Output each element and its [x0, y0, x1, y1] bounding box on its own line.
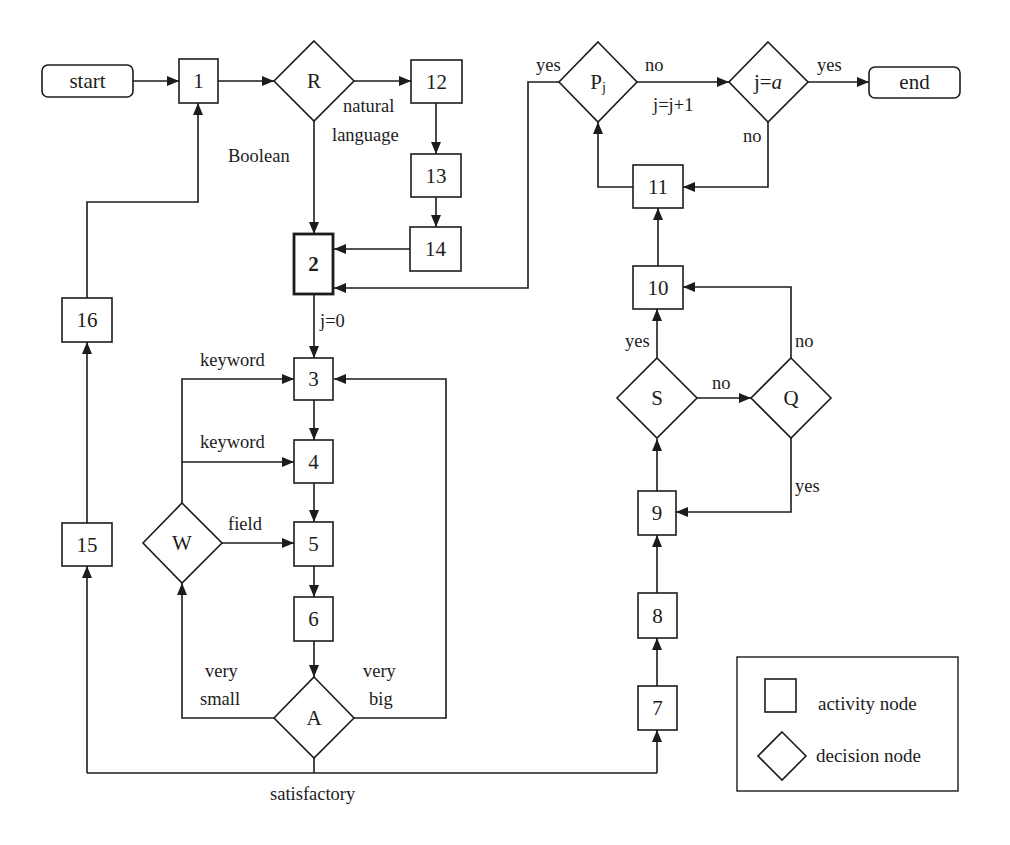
edge-label-q-yes: yes	[795, 476, 820, 496]
activity-node-16: 16	[62, 298, 112, 342]
edge-label-pj-no: no	[645, 55, 664, 75]
edge-label-q-no: no	[795, 331, 814, 351]
edge-label-very-big-1: very	[363, 661, 397, 681]
edge-label-ja-yes: yes	[817, 55, 842, 75]
activity-node-label: 9	[652, 501, 663, 525]
activity-node-15: 15	[62, 523, 112, 566]
activity-node-5: 5	[294, 522, 333, 566]
edge-label-ja-no: no	[743, 126, 762, 146]
decision-node-label: A	[306, 706, 322, 730]
edge-label-natural: natural	[343, 96, 394, 116]
activity-node-label: 13	[426, 164, 447, 188]
terminal-start-label: start	[69, 69, 105, 93]
decision-node-w: W	[143, 503, 222, 583]
flowchart: start end 1 2 3 4 5 6 7 8 9 10	[0, 0, 1010, 845]
activity-node-11: 11	[633, 165, 683, 208]
edge-label-very-big-2: big	[369, 689, 393, 709]
edge-label-j-increment: j=j+1	[652, 95, 693, 115]
decision-node-label-base: P	[590, 70, 602, 94]
edge-label-very-small-2: small	[200, 689, 240, 709]
activity-node-label: 8	[652, 604, 663, 628]
edge-16-to-1	[87, 103, 198, 298]
activity-node-13: 13	[411, 154, 461, 197]
decision-node-a: A	[274, 677, 354, 758]
activity-node-7: 7	[638, 686, 677, 730]
edge-label-language: language	[332, 125, 399, 145]
edge-label-field: field	[228, 514, 263, 534]
decision-node-label-variable: a	[772, 70, 783, 94]
activity-node-label: 4	[308, 450, 319, 474]
activity-node-9: 9	[638, 491, 676, 535]
decision-node-label-prefix: j=	[753, 70, 772, 94]
edge-label-keyword-1: keyword	[200, 350, 265, 370]
decision-node-q: Q	[751, 358, 831, 438]
decision-node-pj: Pj	[559, 42, 637, 122]
activity-node-2: 2	[294, 234, 333, 294]
edge-label-j-init: j=0	[319, 311, 345, 331]
activity-node-10: 10	[633, 266, 683, 309]
edge-label-satisfactory: satisfactory	[270, 784, 356, 804]
decision-node-r: R	[274, 41, 354, 121]
activity-node-label: 2	[308, 252, 319, 276]
activity-node-label: 6	[308, 607, 319, 631]
activity-node-label: 5	[308, 532, 319, 556]
legend-activity-label: activity node	[818, 693, 917, 714]
edge-11-to-pj	[598, 122, 633, 187]
activity-node-label: 11	[648, 175, 668, 199]
legend-decision-label: decision node	[816, 745, 921, 766]
activity-node-8: 8	[638, 593, 677, 638]
edge-q-yes-to-9	[676, 438, 791, 512]
terminal-start: start	[42, 65, 133, 97]
activity-node-label: 14	[425, 237, 447, 261]
activity-node-4: 4	[294, 440, 333, 483]
edge-label-s-no: no	[712, 373, 731, 393]
decision-node-j-equals-a: j=a	[729, 42, 808, 122]
decision-node-label: j=a	[753, 70, 782, 94]
activity-node-label: 10	[648, 276, 669, 300]
decision-node-label: W	[172, 531, 192, 555]
edge-label-very-small-1: very	[205, 661, 239, 681]
edge-label-boolean: Boolean	[228, 146, 290, 166]
legend: activity node decision node	[737, 657, 958, 791]
activity-node-label: 7	[652, 696, 663, 720]
terminal-end-label: end	[899, 70, 930, 94]
activity-node-label: 1	[193, 69, 204, 93]
edge-label-s-yes: yes	[625, 331, 650, 351]
edge-label-keyword-2: keyword	[200, 432, 265, 452]
activity-node-label: 15	[77, 533, 98, 557]
edge-label-pj-yes: yes	[536, 55, 561, 75]
activity-node-6: 6	[294, 597, 333, 641]
activity-node-3: 3	[294, 358, 333, 400]
decision-node-label-subscript: j	[601, 80, 606, 95]
activity-node-label: 16	[77, 308, 98, 332]
activity-node-12: 12	[411, 60, 462, 103]
legend-activity-icon	[765, 679, 796, 712]
activity-node-14: 14	[410, 227, 461, 271]
edge-q-no-to-10	[683, 287, 791, 358]
decision-node-label: S	[651, 386, 663, 410]
activity-node-label: 3	[308, 367, 319, 391]
terminal-end: end	[869, 67, 960, 98]
activity-node-label: 12	[426, 70, 447, 94]
decision-node-label: R	[307, 69, 321, 93]
activity-node-1: 1	[179, 59, 218, 103]
decision-node-label: Q	[783, 386, 798, 410]
decision-node-s: S	[617, 358, 697, 438]
